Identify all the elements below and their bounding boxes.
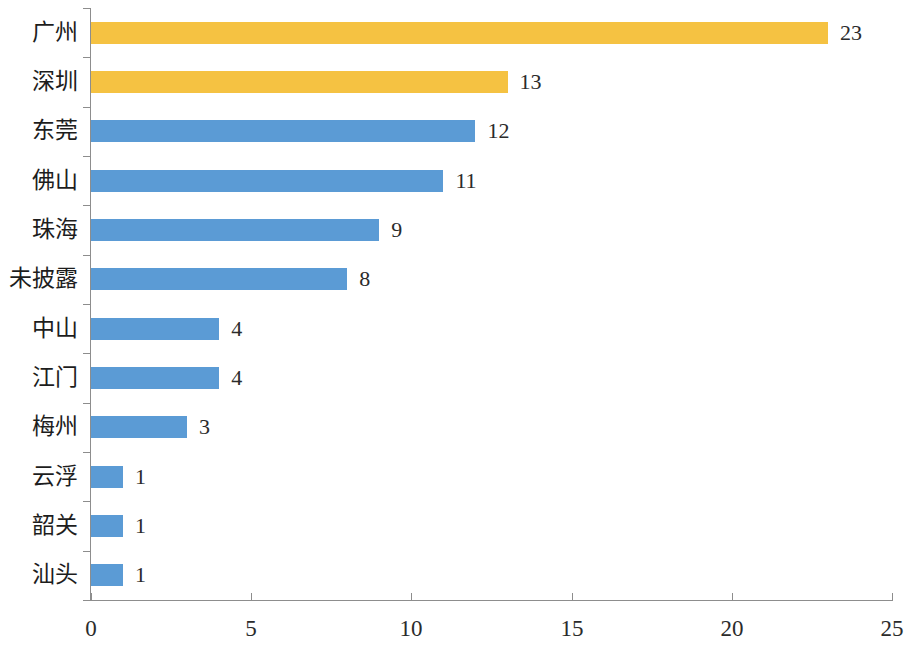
category-label: 云浮 [0,465,78,487]
bar[interactable] [91,170,443,192]
category-label: 梅州 [0,415,78,437]
bar[interactable] [91,71,508,93]
y-axis-tick [83,551,91,552]
y-axis-tick [83,205,91,206]
bar-row: 12 [91,120,892,142]
bar-value-label: 23 [840,22,862,44]
y-axis-tick [83,501,91,502]
category-label: 佛山 [0,169,78,191]
y-axis-tick [83,353,91,354]
x-axis-line [91,600,893,601]
bar-value-label: 12 [487,120,509,142]
bar[interactable] [91,515,123,537]
y-axis-tick [83,8,91,9]
x-axis-tick-label: 5 [245,616,257,642]
bar-row: 4 [91,318,892,340]
bar-chart: 0510152025 广州深圳东莞佛山珠海未披露中山江门梅州云浮韶关汕头 231… [0,0,906,647]
x-axis-tick-label: 15 [561,616,584,642]
category-label: 中山 [0,317,78,339]
y-axis-tick [83,255,91,256]
y-axis-tick [83,57,91,58]
bar-value-label: 4 [231,367,242,389]
y-axis-tick [83,403,91,404]
bar-value-label: 11 [455,170,476,192]
bar-value-label: 4 [231,318,242,340]
category-label: 广州 [0,21,78,43]
bar-row: 9 [91,219,892,241]
bar-value-label: 3 [199,416,210,438]
bar[interactable] [91,120,475,142]
category-label: 东莞 [0,119,78,141]
bar-row: 8 [91,268,892,290]
x-axis-tick-label: 0 [85,616,97,642]
y-axis-tick [83,304,91,305]
category-label: 深圳 [0,70,78,92]
x-axis-tick-label: 10 [400,616,423,642]
bar[interactable] [91,416,187,438]
bar-row: 11 [91,170,892,192]
x-axis-tick-label: 25 [881,616,904,642]
bar[interactable] [91,466,123,488]
bar-row: 3 [91,416,892,438]
x-axis-tick [892,593,893,600]
x-axis-tick-label: 20 [721,616,744,642]
y-axis-tick [83,107,91,108]
y-axis-tick [83,452,91,453]
bar[interactable] [91,318,219,340]
bar[interactable] [91,22,828,44]
y-axis-tick [83,156,91,157]
plot-area: 2313121198443111 [91,8,892,600]
bar-row: 13 [91,71,892,93]
bar-value-label: 1 [135,564,146,586]
bar-value-label: 13 [520,71,542,93]
bar[interactable] [91,268,347,290]
bar-value-label: 1 [135,466,146,488]
y-axis-tick [83,600,91,601]
category-label: 汕头 [0,563,78,585]
category-label: 韶关 [0,514,78,536]
bar[interactable] [91,564,123,586]
bar-row: 1 [91,564,892,586]
bar-row: 1 [91,515,892,537]
bar-row: 23 [91,22,892,44]
bar-row: 1 [91,466,892,488]
bar[interactable] [91,367,219,389]
bar-value-label: 9 [391,219,402,241]
category-label: 未披露 [0,267,78,289]
bar[interactable] [91,219,379,241]
category-label: 江门 [0,366,78,388]
bar-value-label: 1 [135,515,146,537]
bar-value-label: 8 [359,268,370,290]
bar-row: 4 [91,367,892,389]
category-label: 珠海 [0,218,78,240]
